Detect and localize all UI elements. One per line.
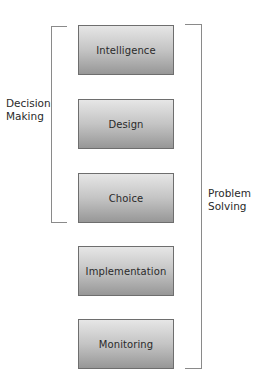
bracket-bottom bbox=[51, 222, 67, 223]
stage-label: Monitoring bbox=[99, 339, 153, 350]
stage-design: Design bbox=[78, 99, 174, 149]
stage-choice: Choice bbox=[78, 173, 174, 223]
stage-implementation: Implementation bbox=[78, 246, 174, 296]
problem-solving-label: Problem Solving bbox=[208, 187, 251, 213]
decision-making-label: Decision Making bbox=[6, 97, 51, 123]
bracket-vertical bbox=[51, 26, 52, 223]
stage-label: Intelligence bbox=[96, 45, 155, 56]
bracket-top bbox=[185, 24, 202, 25]
stage-intelligence: Intelligence bbox=[78, 25, 174, 75]
label-line: Problem bbox=[208, 187, 251, 200]
stage-label: Choice bbox=[109, 193, 143, 204]
stage-label: Implementation bbox=[86, 266, 167, 277]
bracket-vertical bbox=[201, 24, 202, 369]
bracket-bottom bbox=[185, 368, 202, 369]
label-line: Making bbox=[6, 110, 51, 123]
stage-monitoring: Monitoring bbox=[78, 319, 174, 369]
label-line: Decision bbox=[6, 97, 51, 110]
label-line: Solving bbox=[208, 200, 251, 213]
stage-label: Design bbox=[108, 119, 143, 130]
bracket-top bbox=[51, 26, 67, 27]
